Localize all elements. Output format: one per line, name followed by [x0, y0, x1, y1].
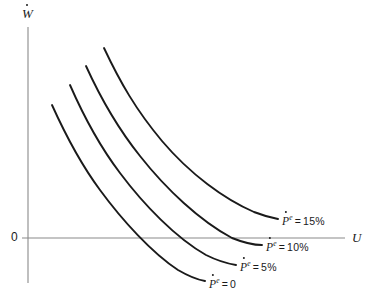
- phillips-curve-pe-15: [104, 48, 278, 219]
- curve-label-pe-0: Pe=0: [209, 276, 236, 290]
- dot-accent-icon: [212, 274, 214, 276]
- origin-label: 0: [11, 230, 18, 244]
- x-axis-label: U: [352, 230, 361, 246]
- phillips-curve-pe-0: [52, 105, 205, 281]
- y-axis-label: W: [22, 6, 33, 22]
- dot-accent-icon: [269, 237, 271, 239]
- plot-area: [0, 0, 378, 307]
- phillips-curve-figure: W U 0 Pe=15% Pe=10% Pe=5% Pe=0: [0, 0, 378, 307]
- dot-accent-icon: [26, 4, 28, 6]
- curve-label-pe-15: Pe=15%: [282, 213, 325, 227]
- dot-accent-icon: [243, 257, 245, 259]
- curve-label-pe-5: Pe=5%: [240, 259, 277, 273]
- dot-accent-icon: [285, 211, 287, 213]
- curve-label-pe-10: Pe=10%: [266, 239, 309, 253]
